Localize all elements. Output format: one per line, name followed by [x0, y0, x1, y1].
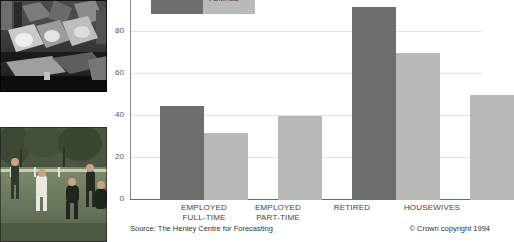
- y-tick-label-20: 20: [107, 153, 124, 161]
- category-line-1: HOUSEWIVES: [382, 203, 482, 213]
- copyright-note: © Crown copyright 1994: [409, 224, 490, 233]
- factory-machinery-photo: [0, 0, 107, 92]
- bar-female-employed-part-time[interactable]: [278, 116, 322, 200]
- bar-female-employed-full-time[interactable]: [204, 133, 248, 200]
- bar-male-retired[interactable]: [352, 7, 396, 200]
- category-line-2: PART-TIME: [234, 213, 322, 223]
- bar-male-employed-full-time[interactable]: [160, 106, 204, 201]
- bar-female-retired[interactable]: [396, 53, 440, 200]
- y-tick-label-0: 0: [107, 195, 124, 203]
- y-tick-label-80: 80: [107, 27, 124, 35]
- bar-female-housewives[interactable]: [470, 95, 514, 200]
- y-tick-label-40: 40: [107, 111, 124, 119]
- category-label-housewives: HOUSEWIVES: [382, 203, 482, 213]
- source-note: Source: The Henley Centre for Forecastin…: [130, 224, 273, 233]
- bar-chart: MALE FEMALE 0 20 40 60 80: [107, 0, 492, 242]
- y-tick-label-60: 60: [107, 69, 124, 77]
- plot-area: [130, 0, 482, 200]
- cricket-match-photo: [0, 127, 107, 242]
